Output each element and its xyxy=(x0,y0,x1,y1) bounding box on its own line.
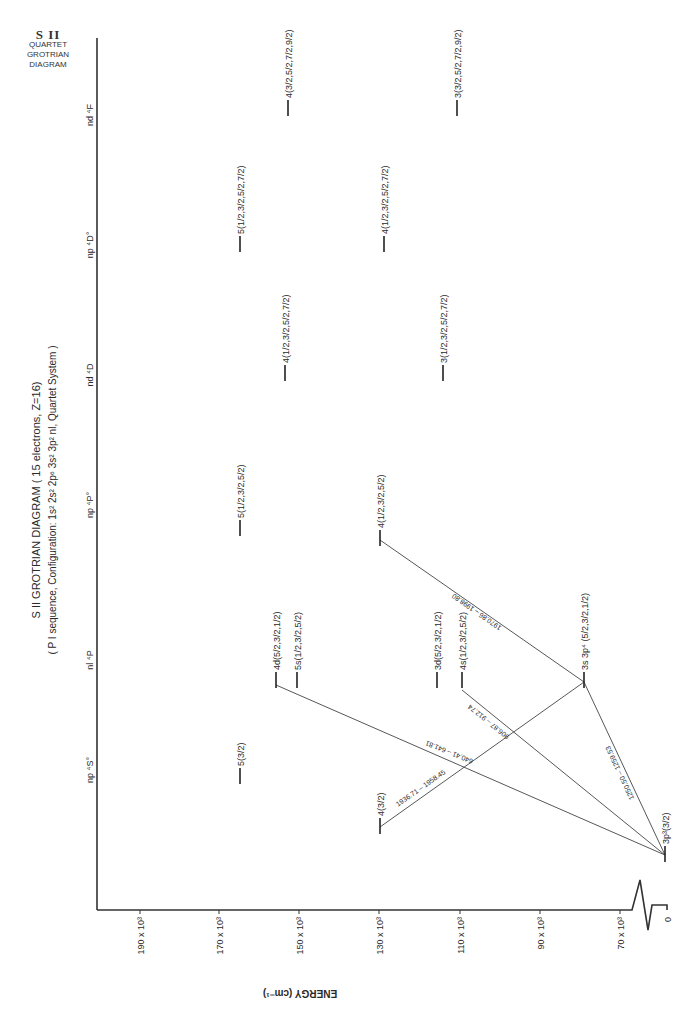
level-label-P4d: 4d(5/2,3/2,1/2) xyxy=(272,611,282,670)
level-label-S4: 4(3/2) xyxy=(376,792,386,816)
corner-line1: QUARTET xyxy=(18,40,78,50)
transition-label-1936: 1936.71 – 1958.45 xyxy=(395,768,447,807)
level-bars xyxy=(240,100,665,862)
level-label-S5: 5(3/2) xyxy=(236,742,246,766)
diagram-subtitle: ( P I sequence, Configuration: 1s² 2s² 2… xyxy=(47,345,58,654)
column-header-np-4Po: np ⁴P° xyxy=(85,492,95,518)
level-label-P5s: 5s(1/2,3/2,5/2) xyxy=(293,612,303,670)
transition-S4-3s3p4 xyxy=(380,682,584,827)
transition-labels: 640.41 – 641.81 906.87 – 912.74 1250.50 … xyxy=(395,592,636,807)
level-label-D3: 3(1/2,3/2,5/2,7/2) xyxy=(439,294,449,363)
level-label-Do5: 5(1/2,3/2,5/2,7/2) xyxy=(236,165,246,234)
transition-Po4-3s3p4 xyxy=(380,540,584,682)
transition-label-1250: 1250.50 – 1259.53 xyxy=(604,745,635,801)
column-header-nl-4P: nl ⁴P xyxy=(85,650,95,669)
transition-3s3p4-ground xyxy=(584,682,665,855)
tick-70k: 70 x 10³ xyxy=(616,917,626,950)
column-headers: np ⁴S° nl ⁴P np ⁴P° nd ⁴D np ⁴D° nd ⁴F xyxy=(85,104,95,783)
tick-130k: 130 x 10³ xyxy=(375,917,385,955)
transition-label-640: 640.41 – 641.81 xyxy=(424,740,474,765)
level-labels: 5(3/2) 4(3/2) 4d(5/2,3/2,1/2) 5s(1/2,3/2… xyxy=(236,29,671,844)
transition-lines xyxy=(276,540,665,855)
tick-90k: 90 x 10³ xyxy=(536,917,546,950)
level-label-P4s: 4s(1/2,3/2,5/2) xyxy=(458,612,468,670)
level-label-Po5: 5(1/2,3/2,5/2) xyxy=(236,464,246,518)
level-label-F3: 3(3/2,5/2,7/2,9/2) xyxy=(453,29,463,98)
column-header-np-4So: np ⁴S° xyxy=(85,757,95,783)
corner-label: S II QUARTET GROTRIAN DIAGRAM xyxy=(18,30,78,70)
transition-label-906: 906.87 – 912.74 xyxy=(466,703,510,740)
level-label-F4: 4(3/2,5/2,7/2,9/2) xyxy=(284,29,294,98)
tick-0: 0 xyxy=(663,917,673,922)
level-label-Do4: 4(1/2,3/2,5/2,7/2) xyxy=(380,165,390,234)
tick-110k: 110 x 10³ xyxy=(456,917,466,954)
grotrian-diagram: 190 x 10³ 170 x 10³ 150 x 10³ 130 x 10³ … xyxy=(0,0,693,1023)
corner-line3: DIAGRAM xyxy=(18,60,78,70)
diagram-title: S II GROTRIAN DIAGRAM ( 15 electrons, Z=… xyxy=(30,382,42,619)
energy-tick-labels: 190 x 10³ 170 x 10³ 150 x 10³ 130 x 10³ … xyxy=(136,917,673,955)
column-header-np-4Do: np ⁴D° xyxy=(85,231,95,258)
tick-190k: 190 x 10³ xyxy=(136,917,146,955)
energy-axis-label: ENERGY (cm⁻¹) xyxy=(263,988,337,999)
level-label-Po4: 4(1/2,3/2,5/2) xyxy=(376,474,386,528)
tick-150k: 150 x 10³ xyxy=(295,917,305,955)
column-header-nd-4D: nd ⁴D xyxy=(85,363,95,386)
corner-line2: GROTRIAN xyxy=(18,50,78,60)
transition-4s-ground xyxy=(462,690,665,855)
level-label-P3s3p4: 3s 3p⁴ (5/2,3/2,1/2) xyxy=(580,593,590,670)
level-label-P3d: 3d(5/2,3/2,1/2) xyxy=(433,611,443,670)
corner-ion: S II xyxy=(18,30,78,40)
tick-170k: 170 x 10³ xyxy=(215,917,225,955)
level-label-D4: 4(1/2,3/2,5/2,7/2) xyxy=(281,294,291,363)
column-header-nd-4F: nd ⁴F xyxy=(85,104,95,126)
level-label-ground: 3p³(3/2) xyxy=(661,812,671,844)
